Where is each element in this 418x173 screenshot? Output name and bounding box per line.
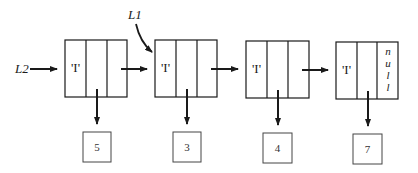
null-pointer-label: n u l l bbox=[385, 45, 391, 93]
node-value: 3 bbox=[184, 141, 190, 153]
node-value: 4 bbox=[275, 142, 281, 154]
node-tag: 'I' bbox=[161, 60, 170, 75]
linked-list-diagram: L2 L1 'I' 5 'I' 3 'I' 4 bbox=[0, 0, 418, 173]
null-letter: l bbox=[386, 69, 389, 81]
node-value: 5 bbox=[94, 141, 100, 153]
list-node: 'I' 4 bbox=[246, 41, 328, 163]
node-tag: 'I' bbox=[252, 61, 261, 76]
pointer-l2: L2 bbox=[14, 61, 57, 76]
null-letter: l bbox=[386, 81, 389, 93]
pointer-l1: L1 bbox=[127, 7, 152, 52]
pointer-label-l1: L1 bbox=[127, 7, 142, 22]
node-value: 7 bbox=[365, 143, 371, 155]
node-tag: 'I' bbox=[342, 62, 351, 77]
node-tag: 'I' bbox=[71, 60, 80, 75]
pointer-label-l2: L2 bbox=[14, 61, 29, 76]
null-letter: u bbox=[385, 57, 391, 69]
list-node-last: 'I' n u l l 7 bbox=[336, 42, 398, 164]
curved-pointer-arrow-icon bbox=[136, 24, 152, 52]
list-node: 'I' 5 bbox=[65, 40, 147, 162]
null-letter: n bbox=[385, 45, 391, 57]
list-node: 'I' 3 bbox=[155, 40, 238, 162]
